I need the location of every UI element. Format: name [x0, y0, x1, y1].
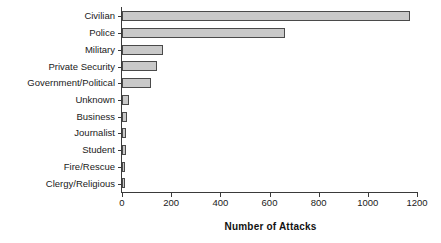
bar: [122, 28, 285, 38]
bar-chart: Clergy/ReligiousFire/RescueStudentJourna…: [0, 0, 441, 243]
category-label: Fire/Rescue: [64, 162, 115, 172]
bar: [122, 45, 163, 55]
category-label: Journalist: [74, 129, 115, 139]
x-axis-tick-label: 1200: [406, 198, 427, 208]
x-axis-tick-label: 0: [119, 198, 124, 208]
bar-row: Student: [122, 142, 417, 159]
bar-row: Business: [122, 108, 417, 125]
x-axis-tick-label: 200: [163, 198, 179, 208]
category-label: Unknown: [75, 95, 115, 105]
category-label: Business: [76, 112, 115, 122]
bar-row: Government/Political: [122, 75, 417, 92]
bar-row: Civilian: [122, 8, 417, 25]
bar: [122, 112, 127, 122]
plot-area: Clergy/ReligiousFire/RescueStudentJourna…: [122, 8, 417, 192]
bar-row: Fire/Rescue: [122, 159, 417, 176]
x-axis-tick-label: 800: [311, 198, 327, 208]
bar: [122, 178, 125, 188]
bar-row: Military: [122, 41, 417, 58]
category-label: Clergy/Religious: [46, 179, 115, 189]
x-axis-tick-label: 400: [212, 198, 228, 208]
bar: [122, 95, 129, 105]
category-label: Student: [82, 145, 115, 155]
x-axis-tick-label: 1000: [357, 198, 378, 208]
bar: [122, 61, 157, 71]
category-label: Military: [85, 45, 115, 55]
bar: [122, 11, 410, 21]
bar: [122, 145, 126, 155]
x-axis-title-text: Number of Attacks: [225, 221, 317, 232]
category-label: Police: [89, 28, 115, 38]
bar-row: Clergy/Religious: [122, 175, 417, 192]
category-label: Private Security: [48, 62, 115, 72]
bar-row: Private Security: [122, 58, 417, 75]
bar-row: Police: [122, 25, 417, 42]
category-label: Government/Political: [27, 79, 115, 89]
category-label: Civilian: [84, 12, 115, 22]
x-axis-tick-label: 600: [262, 198, 278, 208]
bar: [122, 78, 151, 88]
bar-row: Unknown: [122, 92, 417, 109]
x-axis-title: Number of Attacks: [0, 221, 441, 232]
bar: [122, 128, 126, 138]
bar: [122, 162, 125, 172]
bar-row: Journalist: [122, 125, 417, 142]
